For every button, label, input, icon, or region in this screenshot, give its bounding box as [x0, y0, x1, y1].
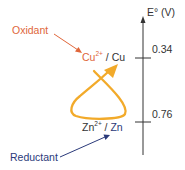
zn-couple-label: Zn2+ / Zn: [82, 122, 123, 133]
oxidant-arrowhead-icon: [75, 47, 82, 53]
zn-metal: Zn: [110, 121, 122, 133]
cu-metal: Cu: [112, 51, 125, 63]
axis-arrowhead-icon: [141, 16, 146, 23]
reaction-loop: [71, 70, 125, 119]
zn-ion: Zn2+: [82, 121, 102, 133]
reductant-label: Reductant: [10, 152, 58, 163]
cu-ion: Cu2+: [82, 51, 103, 63]
reductant-arrow: [60, 137, 105, 157]
axis-label: E° (V): [147, 7, 175, 18]
tick-label-076: 0.76: [152, 109, 172, 120]
oxidant-arrow: [54, 34, 78, 50]
tick-label-034: 0.34: [152, 44, 172, 55]
cu-separator: /: [103, 51, 112, 63]
oxidant-label: Oxidant: [12, 25, 48, 36]
cu-couple-label: Cu2+ / Cu: [82, 52, 125, 63]
loop-arrowhead-icon: [104, 64, 118, 78]
